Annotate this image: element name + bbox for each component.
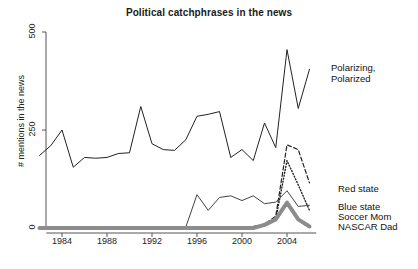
polarizing-line2: Polarized	[331, 73, 371, 84]
series-lines	[40, 50, 310, 228]
polarizing-line1: Polarizing,	[331, 62, 375, 73]
series-path-nascar-dad	[40, 203, 310, 228]
axis-lines	[42, 32, 316, 237]
chart-container: Political catchphrases in the news # men…	[0, 0, 418, 269]
series-label-polarizing: Polarizing, Polarized	[331, 62, 375, 84]
series-path-blue-state	[40, 161, 310, 228]
series-path-red-state	[40, 145, 310, 228]
series-label-red-state: Red state	[338, 183, 379, 194]
series-path-polarizing-polarized	[40, 50, 310, 168]
series-label-nascar-dad: NASCAR Dad	[338, 221, 398, 232]
